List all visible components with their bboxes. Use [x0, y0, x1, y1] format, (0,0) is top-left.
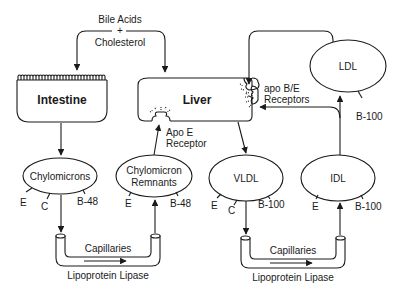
chylomicrons-label: Chylomicrons [30, 171, 91, 182]
remnants-label-1: Chylomicron [126, 165, 182, 176]
ldl-label: LDL [339, 61, 358, 72]
chylomicrons-apo-e: E [20, 197, 27, 208]
lipoprotein-lipase-label-left: Lipoprotein Lipase [67, 270, 149, 281]
idl-particle: IDL E B-100 [301, 155, 382, 212]
cholesterol-label: Cholesterol [95, 37, 146, 48]
vldl-apo-c: C [228, 205, 235, 216]
chylomicrons-apo-b48: B-48 [77, 196, 99, 207]
ldl-particle: LDL B-100 [310, 40, 386, 122]
ldl-apo-b100: B-100 [356, 111, 383, 122]
idl-apo-e: E [312, 201, 319, 212]
apo-b100-tick [358, 91, 362, 98]
arrow-liver-to-vldl [238, 122, 246, 153]
intestinal-villi-icon [17, 75, 107, 80]
apo-e-receptor-label-2: Receptor [166, 138, 207, 149]
liver: Liver [138, 78, 259, 121]
apo-be-receptor-label-2: Receptors [264, 94, 310, 105]
remnants-apo-b48: B-48 [170, 198, 192, 209]
remnants-apo-e: E [125, 198, 132, 209]
remnants-label-2: Remnants [131, 177, 177, 188]
vldl-particle: VLDL E C B-100 [209, 155, 285, 216]
apo-e-receptor-icon [150, 107, 170, 121]
chylomicrons-particle: Chylomicrons E C B-48 [20, 158, 99, 212]
vldl-label: VLDL [233, 173, 258, 184]
intestine: Intestine [17, 75, 107, 122]
arrow-idl-to-liver [260, 107, 340, 118]
bile-acids-label: Bile Acids [98, 14, 141, 25]
lipoprotein-lipase-label-right: Lipoprotein Lipase [252, 272, 334, 283]
chylomicron-remnants-particle: Chylomicron Remnants E B-48 [116, 155, 192, 209]
plus-sign: + [117, 25, 123, 36]
arrow-remnants-to-liver [154, 125, 159, 155]
idl-label: IDL [330, 173, 346, 184]
apo-be-receptor-label-1: apo B/E [264, 83, 300, 94]
vldl-apo-b100: B-100 [258, 199, 285, 210]
capillary-right: Capillaries Lipoprotein Lipase [241, 201, 345, 283]
bile-acids-loop: Bile Acids + Cholesterol [77, 14, 165, 72]
chylomicrons-apo-c: C [41, 201, 48, 212]
capillary-left: Capillaries Lipoprotein Lipase [56, 195, 160, 281]
liver-label: Liver [183, 93, 212, 107]
lipoprotein-metabolism-diagram: Bile Acids + Cholesterol Intestine Liver [0, 0, 395, 293]
intestine-label: Intestine [37, 93, 87, 107]
apo-e-receptor-label-1: Apo E [166, 127, 194, 138]
capillaries-label-left: Capillaries [85, 243, 132, 254]
vldl-apo-e: E [211, 200, 218, 211]
idl-apo-b100: B-100 [355, 201, 382, 212]
capillaries-label-right: Capillaries [270, 245, 317, 256]
